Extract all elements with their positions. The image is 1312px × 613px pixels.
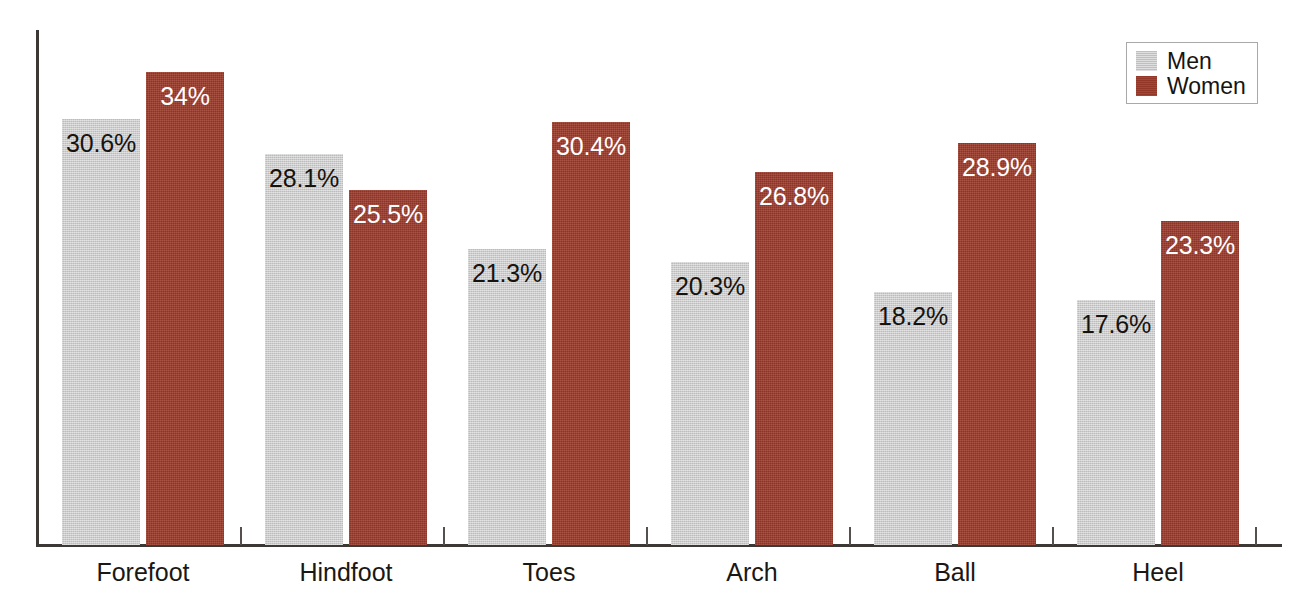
x-axis-tick bbox=[849, 527, 851, 545]
x-axis-tick bbox=[443, 527, 445, 545]
bar-value-label: 21.3% bbox=[468, 258, 546, 288]
x-axis-tick bbox=[1052, 527, 1054, 545]
legend-label-women: Women bbox=[1167, 74, 1246, 98]
bar-men-arch: 20.3% bbox=[671, 262, 749, 545]
bar-group: 20.3%26.8% bbox=[671, 30, 833, 545]
bar-men-forefoot: 30.6% bbox=[62, 119, 140, 545]
bar-value-label: 26.8% bbox=[755, 181, 833, 211]
bar-group: 28.1%25.5% bbox=[265, 30, 427, 545]
bar-value-label: 28.1% bbox=[265, 163, 343, 193]
plot-area: 30.6%34%28.1%25.5%21.3%30.4%20.3%26.8%18… bbox=[36, 30, 1282, 545]
bar-value-label: 23.3% bbox=[1161, 230, 1239, 260]
x-axis-tick bbox=[240, 527, 242, 545]
bar-women-hindfoot: 25.5% bbox=[349, 190, 427, 545]
bar-group: 17.6%23.3% bbox=[1077, 30, 1239, 545]
bar-men-ball: 18.2% bbox=[874, 292, 952, 545]
bar-value-label: 34% bbox=[146, 81, 224, 111]
bar-value-label: 20.3% bbox=[671, 271, 749, 301]
bar-women-arch: 26.8% bbox=[755, 172, 833, 545]
bar-men-heel: 17.6% bbox=[1077, 300, 1155, 545]
bar-women-toes: 30.4% bbox=[552, 122, 630, 545]
bar-group: 18.2%28.9% bbox=[874, 30, 1036, 545]
bar-value-label: 28.9% bbox=[958, 152, 1036, 182]
bar-value-label: 30.4% bbox=[552, 131, 630, 161]
bar-value-label: 17.6% bbox=[1077, 309, 1155, 339]
bar-value-label: 30.6% bbox=[62, 128, 140, 158]
x-axis-tick bbox=[1255, 527, 1257, 545]
bar-men-hindfoot: 28.1% bbox=[265, 154, 343, 545]
legend-label-men: Men bbox=[1167, 49, 1212, 73]
bar-group: 21.3%30.4% bbox=[468, 30, 630, 545]
bar-chart: 30.6%34%28.1%25.5%21.3%30.4%20.3%26.8%18… bbox=[0, 0, 1312, 613]
legend-swatch-women-icon bbox=[1136, 76, 1157, 96]
x-axis-tick bbox=[646, 527, 648, 545]
x-axis-label-heel: Heel bbox=[1037, 556, 1279, 588]
bar-women-forefoot: 34% bbox=[146, 72, 224, 545]
bar-men-toes: 21.3% bbox=[468, 249, 546, 545]
bar-value-label: 25.5% bbox=[349, 199, 427, 229]
bar-value-label: 18.2% bbox=[874, 301, 952, 331]
bar-group: 30.6%34% bbox=[62, 30, 224, 545]
chart-legend: Men Women bbox=[1126, 42, 1258, 104]
legend-swatch-men-icon bbox=[1136, 51, 1157, 71]
bar-women-ball: 28.9% bbox=[958, 143, 1036, 545]
bar-women-heel: 23.3% bbox=[1161, 221, 1239, 545]
